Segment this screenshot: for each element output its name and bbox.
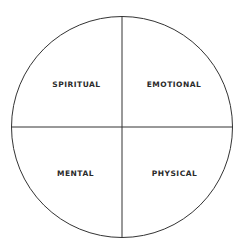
quadrant-label-emotional: EMOTIONAL [147,81,202,89]
quadrant-circle-diagram: SPIRITUAL EMOTIONAL MENTAL PHYSICAL [0,0,241,251]
quadrant-label-mental: MENTAL [57,170,94,178]
quadrant-label-spiritual: SPIRITUAL [52,81,100,89]
circle-graphic [0,0,241,251]
quadrant-label-physical: PHYSICAL [152,170,197,178]
